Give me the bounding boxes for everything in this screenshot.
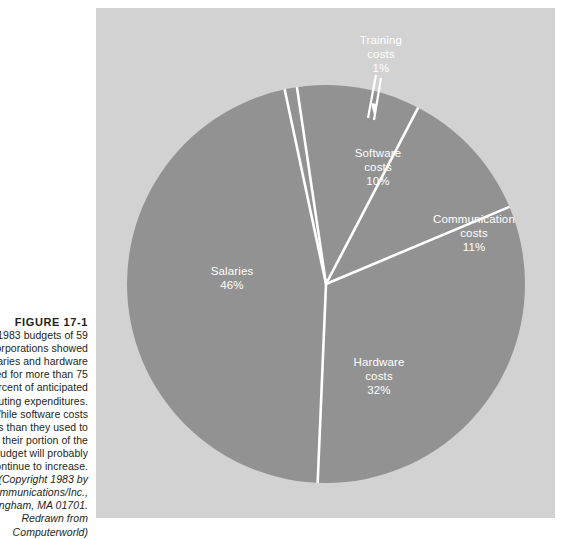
- slice-label-software-costs: Software costs 10%: [330, 146, 426, 188]
- slice-label-name: Communication: [404, 212, 544, 226]
- slice-label-communication-costs: Communication costs 11%: [404, 212, 544, 254]
- slice-label-training-costs: Training costs 1%: [333, 33, 429, 75]
- slice-label-percent: 1%: [333, 61, 429, 75]
- slice-label-salaries: Salaries 46%: [177, 264, 287, 292]
- slice-label-name: Software: [330, 146, 426, 160]
- slice-label-name2: costs: [330, 160, 426, 174]
- slice-label-percent: 46%: [177, 278, 287, 292]
- slice-label-name: Training: [333, 33, 429, 47]
- slice-label-percent: 32%: [329, 383, 429, 397]
- slice-label-name2: costs: [329, 369, 429, 383]
- slice-label-name2: costs: [333, 47, 429, 61]
- slice-label-hardware-costs: Hardware costs 32%: [329, 355, 429, 397]
- slice-label-percent: 11%: [404, 240, 544, 254]
- slice-label-name: Hardware: [329, 355, 429, 369]
- slice-label-percent: 10%: [330, 174, 426, 188]
- slice-label-name: Salaries: [177, 264, 287, 278]
- slice-label-name2: costs: [404, 226, 544, 240]
